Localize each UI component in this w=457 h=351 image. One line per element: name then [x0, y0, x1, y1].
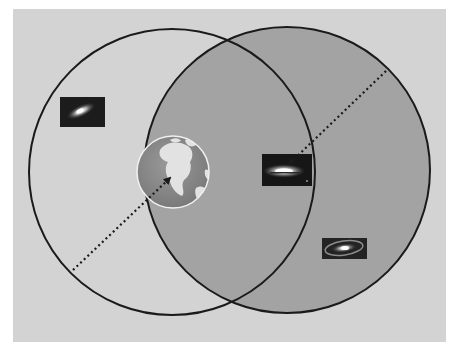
earth-globe: [137, 136, 210, 208]
diagram-stage: [0, 0, 457, 351]
galaxy-image-top-left: [60, 97, 105, 127]
galaxy-image-center: [262, 154, 312, 186]
galaxy-image-bottom-right: [322, 238, 367, 259]
venn-diagram: [0, 0, 457, 351]
